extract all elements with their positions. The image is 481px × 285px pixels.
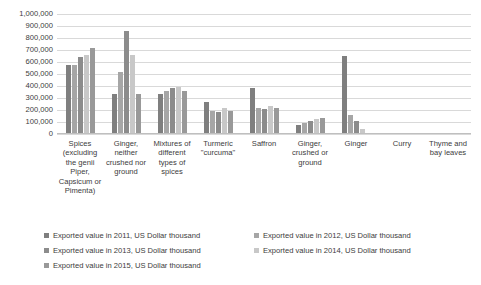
bar [222, 108, 227, 134]
plot-wrapper: 1,000,000900,000800,000700,000600,000500… [0, 0, 481, 140]
legend-label: Exported value in 2013, US Dollar thousa… [53, 246, 201, 255]
legend-label: Exported value in 2015, US Dollar thousa… [53, 261, 201, 270]
x-axis-baseline [57, 133, 471, 134]
bar [124, 31, 129, 134]
bar-group [333, 14, 379, 134]
bar-group [379, 14, 425, 134]
bar [158, 94, 163, 134]
legend-item[interactable]: Exported value in 2014, US Dollar thousa… [254, 243, 464, 258]
bar [274, 108, 279, 134]
legend-label: Exported value in 2012, US Dollar thousa… [263, 231, 411, 240]
category-label: Thyme and bay leaves [425, 139, 471, 195]
bar [210, 111, 215, 134]
bar [130, 55, 135, 134]
bar [182, 91, 187, 134]
y-axis-tick-label: 400,000 [26, 82, 53, 90]
legend-swatch-icon [254, 233, 259, 238]
category-label: Mixtures of different types of spices [149, 139, 195, 195]
bar-groups [57, 14, 471, 134]
y-axis-tick-label: 0 [49, 130, 53, 138]
legend-item[interactable]: Exported value in 2013, US Dollar thousa… [44, 243, 254, 258]
category-label: Spices (excluding the genii Piper, Capsi… [57, 139, 103, 195]
legend-swatch-icon [44, 233, 49, 238]
bar [348, 115, 353, 134]
gridline [57, 134, 471, 135]
bar [262, 109, 267, 134]
bar [112, 94, 117, 134]
bar-chart: 1,000,000900,000800,000700,000600,000500… [0, 0, 481, 285]
bar [66, 65, 71, 134]
plot-area [57, 14, 471, 134]
y-axis-tick-label: 1,000,000 [19, 10, 53, 18]
y-axis-tick-label: 900,000 [26, 22, 53, 30]
legend-item[interactable]: Exported value in 2012, US Dollar thousa… [254, 228, 464, 243]
bar-group [149, 14, 195, 134]
bar [268, 106, 273, 134]
legend-label: Exported value in 2011, US Dollar thousa… [53, 231, 200, 240]
bar-group [103, 14, 149, 134]
bar [216, 112, 221, 134]
legend-item[interactable]: Exported value in 2011, US Dollar thousa… [44, 228, 254, 243]
category-label: Ginger, crushed or ground [287, 139, 333, 195]
bar-group [241, 14, 287, 134]
bar [84, 55, 89, 134]
legend-swatch-icon [44, 263, 49, 268]
y-axis-tick-label: 800,000 [26, 34, 53, 42]
bar [164, 91, 169, 134]
legend-swatch-icon [254, 248, 259, 253]
category-label: Saffron [241, 139, 287, 195]
bar [136, 94, 141, 134]
bar [314, 119, 319, 134]
category-label: Curry [379, 139, 425, 195]
bar-group [425, 14, 471, 134]
y-axis-tick-label: 600,000 [26, 58, 53, 66]
bar [204, 102, 209, 134]
bar-group [195, 14, 241, 134]
bar [320, 118, 325, 134]
y-axis-tick-label: 200,000 [26, 106, 53, 114]
category-label: Ginger [333, 139, 379, 195]
bar-group [57, 14, 103, 134]
bar [170, 88, 175, 134]
y-axis-tick-label: 500,000 [26, 70, 53, 78]
y-axis-tick-label: 100,000 [26, 118, 53, 126]
bar [176, 87, 181, 134]
y-axis: 1,000,000900,000800,000700,000600,000500… [0, 0, 56, 140]
legend-item[interactable]: Exported value in 2015, US Dollar thousa… [44, 258, 254, 273]
bar [90, 48, 95, 134]
bar [342, 56, 347, 134]
bar [78, 57, 83, 134]
category-label: Ginger, neither crushed nor ground [103, 139, 149, 195]
bar [228, 111, 233, 134]
bar [72, 65, 77, 134]
bar [250, 88, 255, 134]
bar [256, 108, 261, 134]
legend-swatch-icon [44, 248, 49, 253]
category-label: Turmeric "curcuma" [195, 139, 241, 195]
legend-label: Exported value in 2014, US Dollar thousa… [263, 246, 411, 255]
y-axis-tick-label: 300,000 [26, 94, 53, 102]
y-axis-tick-label: 700,000 [26, 46, 53, 54]
category-labels: Spices (excluding the genii Piper, Capsi… [57, 139, 471, 195]
bar [118, 72, 123, 134]
chart-legend: Exported value in 2011, US Dollar thousa… [44, 228, 464, 273]
bar-group [287, 14, 333, 134]
